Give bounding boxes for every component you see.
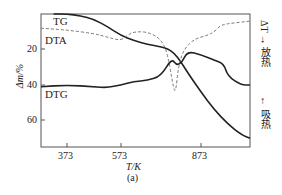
x-tick-label-373: 373 <box>58 151 73 161</box>
right-axis-label-bottom: ← 吸热 <box>257 96 272 129</box>
series-dtg-line <box>41 53 250 88</box>
series-label-dtg: DTG <box>45 89 68 100</box>
series-layer <box>41 14 250 138</box>
y-tick-label-40: 40 <box>27 80 37 90</box>
right-axis-label-top: ΔT → 放热 <box>257 20 272 67</box>
y-tick-label-60: 60 <box>27 115 37 125</box>
x-axis-label: T/K <box>126 162 141 172</box>
y-axis-label: Δm/% <box>14 64 25 88</box>
series-label-tg: TG <box>53 16 68 27</box>
series-label-dta: DTA <box>45 35 67 46</box>
figure-caption: (a) <box>127 173 138 183</box>
x-tick-label-873: 873 <box>192 151 207 161</box>
x-tick-label-573: 573 <box>112 151 127 161</box>
y-tick-label-20: 20 <box>27 44 37 54</box>
